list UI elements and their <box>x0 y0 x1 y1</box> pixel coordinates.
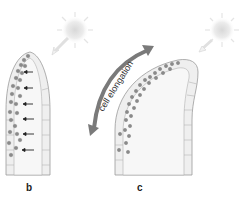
shoot-c <box>115 60 198 176</box>
shoot-b <box>6 52 50 175</box>
light-arrow-c <box>199 40 212 52</box>
phototropism-diagram: cell elongation <box>0 0 241 200</box>
light-arrow-b <box>52 38 68 55</box>
panel-label-b: b <box>26 182 32 193</box>
panel-label-c: c <box>137 182 143 193</box>
